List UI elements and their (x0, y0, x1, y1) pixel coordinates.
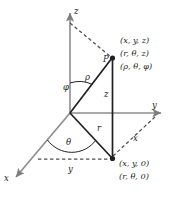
x-axis-label: x (4, 173, 9, 183)
rho-segment (70, 58, 112, 113)
point-p-dot (110, 55, 115, 60)
r-segment (70, 113, 112, 158)
coordinate-axes-svg: z y x P (x, y, z) (r, θ, z) (ρ, θ, φ) (x… (0, 0, 179, 209)
x-axis-line (16, 113, 70, 177)
p-tuple-cartesian: (x, y, z) (120, 35, 149, 45)
rho-label: ρ (84, 72, 90, 82)
z-axis-label: z (73, 6, 79, 16)
y-component-label: y (67, 164, 73, 174)
point-p-label: P (102, 54, 109, 64)
projection-point-dot (110, 156, 115, 161)
phi-angle-label: φ (63, 82, 69, 92)
theta-angle-arc (48, 140, 97, 152)
x-component-label: x (133, 133, 138, 143)
r-segment-label: r (97, 123, 102, 133)
theta-angle-label: θ (66, 137, 71, 147)
projection-tuple-cartesian: (x, y, 0) (119, 158, 149, 168)
p-tuple-spherical: (ρ, θ, φ) (120, 61, 152, 71)
p-tuple-cylindrical: (r, θ, z) (120, 48, 149, 58)
y-axis-label: y (151, 100, 157, 110)
projection-tuple-cylindrical: (r, θ, 0) (119, 171, 149, 181)
dashed-z-to-p (70, 23, 111, 57)
coordinate-diagram: z y x P (x, y, z) (r, θ, z) (ρ, θ, φ) (x… (0, 0, 179, 209)
z-height-label: z (103, 89, 109, 99)
